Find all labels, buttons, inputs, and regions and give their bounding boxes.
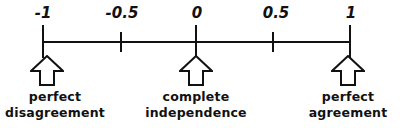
caption-line-1: perfect (5, 89, 105, 105)
correlation-scale-figure: -1 -0.5 0 0.5 1 perfect disagreement com… (0, 0, 406, 128)
up-arrow-icon-independence (179, 55, 213, 86)
caption-line-1: perfect (309, 89, 388, 105)
caption-perfect-disagreement: perfect disagreement (5, 89, 105, 121)
tick-label-0-5: 0.5 (263, 6, 290, 21)
tick-label-minus-1: -1 (35, 6, 52, 21)
up-arrow-icon-agreement (331, 55, 365, 86)
caption-line-2: agreement (309, 105, 388, 121)
axis-tick-0-5 (272, 32, 274, 52)
tick-label-1: 1 (346, 6, 356, 21)
caption-line-1: complete (145, 89, 247, 105)
caption-line-2: independence (145, 105, 247, 121)
caption-line-2: disagreement (5, 105, 105, 121)
axis-tick-0 (195, 25, 197, 58)
tick-label-minus-0-5: -0.5 (106, 6, 139, 21)
axis-tick-1 (349, 25, 351, 58)
axis-tick-minus-0-5 (120, 32, 122, 52)
caption-perfect-agreement: perfect agreement (309, 89, 388, 121)
axis-line (43, 41, 351, 43)
tick-label-0: 0 (192, 6, 202, 21)
caption-complete-independence: complete independence (145, 89, 247, 121)
up-arrow-icon-disagreement (30, 55, 64, 86)
axis-tick-minus-1 (42, 25, 44, 58)
